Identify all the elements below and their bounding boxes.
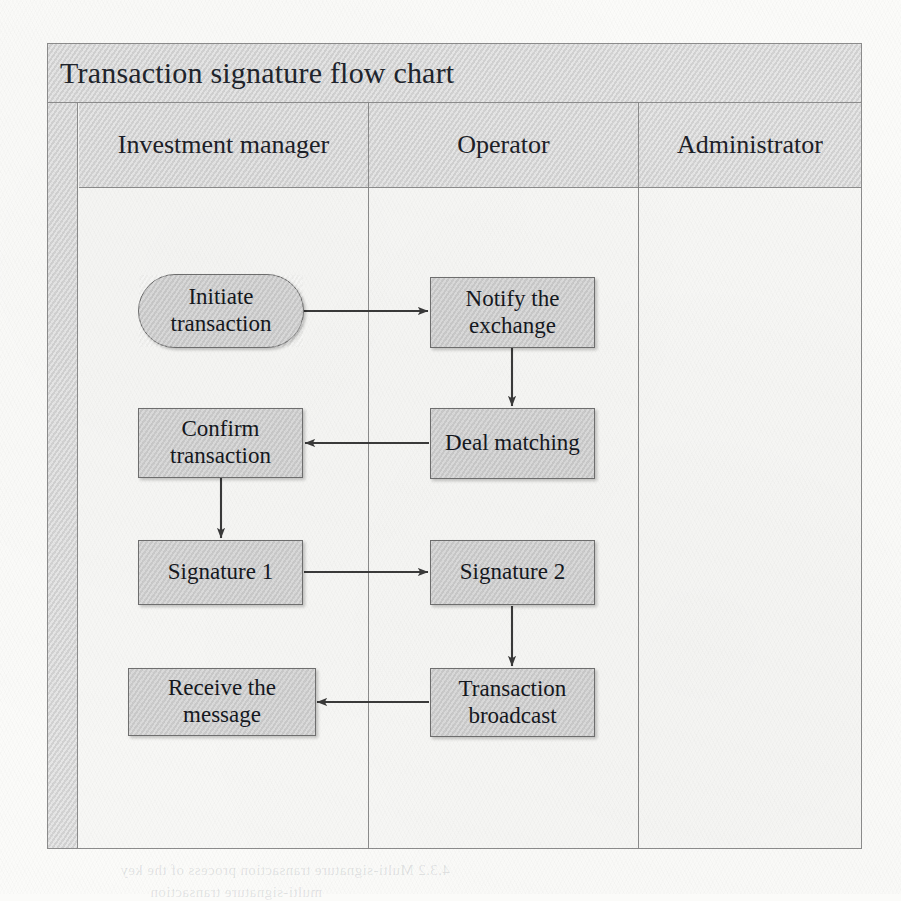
- node-label: Confirm transaction: [145, 416, 296, 469]
- node-receive-the-message[interactable]: Receive the message: [128, 668, 316, 736]
- lane-body-administrator: [639, 188, 861, 848]
- node-label: Initiate transaction: [145, 284, 297, 337]
- node-deal-matching[interactable]: Deal matching: [430, 408, 595, 479]
- lane-header-label: Administrator: [677, 130, 823, 160]
- chart-title-bar: Transaction signature flow chart: [48, 44, 861, 103]
- node-label: Receive the message: [135, 675, 309, 728]
- swimlane-header-row: Investment manager Operator Administrato…: [79, 103, 861, 188]
- lane-header-operator: Operator: [369, 103, 639, 187]
- node-transaction-broadcast[interactable]: Transaction broadcast: [430, 668, 595, 737]
- lane-header-label: Operator: [457, 130, 549, 160]
- lane-header-investment-manager: Investment manager: [79, 103, 369, 187]
- node-label: Transaction broadcast: [437, 676, 588, 729]
- node-notify-the-exchange[interactable]: Notify the exchange: [430, 277, 595, 348]
- swimlane-left-rail: [48, 103, 78, 848]
- node-label: Signature 1: [168, 559, 273, 586]
- page-title: Transaction signature flow chart: [48, 56, 454, 90]
- node-signature-1[interactable]: Signature 1: [138, 540, 303, 605]
- lane-header-label: Investment manager: [118, 130, 330, 160]
- bleed-through-text: 4.3.2 Multi-signature transaction proces…: [120, 862, 450, 879]
- node-label: Deal matching: [445, 430, 580, 457]
- node-signature-2[interactable]: Signature 2: [430, 540, 595, 605]
- node-confirm-transaction[interactable]: Confirm transaction: [138, 408, 303, 478]
- node-initiate-transaction[interactable]: Initiate transaction: [138, 274, 304, 348]
- node-label: Signature 2: [460, 559, 565, 586]
- bleed-through-text: multi-signature transaction: [150, 884, 322, 901]
- node-label: Notify the exchange: [437, 286, 588, 339]
- lane-header-administrator: Administrator: [639, 103, 861, 187]
